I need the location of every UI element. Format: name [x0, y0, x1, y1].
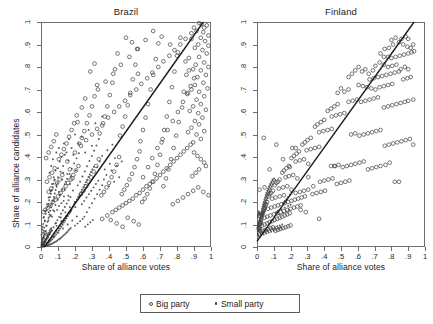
- y-tick-label: .9: [23, 38, 33, 52]
- data-point-small-party: [43, 245, 45, 247]
- data-point-big-party: [193, 83, 197, 87]
- data-point-small-party: [52, 158, 54, 160]
- data-point-big-party: [153, 172, 157, 176]
- legend: Big party Small party: [140, 294, 300, 313]
- data-point-big-party: [87, 180, 91, 184]
- data-point-small-party: [277, 210, 279, 212]
- data-point-small-party: [91, 168, 93, 170]
- data-point-small-party: [257, 226, 259, 228]
- data-point-big-party: [339, 181, 343, 185]
- data-point-big-party: [311, 192, 315, 196]
- y-tick-label: .8: [23, 60, 33, 74]
- y-tick-label: .7: [23, 83, 33, 97]
- data-point-big-party: [194, 63, 198, 67]
- data-point-small-party: [95, 145, 97, 147]
- data-point-small-party: [70, 210, 72, 212]
- data-point-big-party: [122, 188, 126, 192]
- data-point-small-party: [46, 242, 48, 244]
- data-point-big-party: [258, 188, 262, 192]
- data-point-big-party: [166, 128, 170, 132]
- data-point-small-party: [45, 225, 47, 227]
- data-point-big-party: [84, 184, 88, 188]
- data-point-big-party: [149, 88, 153, 92]
- data-point-small-party: [41, 243, 43, 245]
- data-point-big-party: [199, 137, 203, 141]
- data-point-big-party: [186, 130, 190, 134]
- data-point-big-party: [195, 29, 199, 33]
- data-point-small-party: [280, 208, 282, 210]
- data-point-small-party: [266, 197, 268, 199]
- data-point-big-party: [45, 180, 49, 184]
- data-point-big-party: [313, 146, 317, 150]
- data-point-big-party: [204, 73, 208, 77]
- data-point-big-party: [295, 205, 299, 209]
- figure-root: Brazil Finland Share of alliance candida…: [0, 0, 433, 324]
- data-point-small-party: [71, 208, 73, 210]
- data-point-small-party: [91, 202, 93, 204]
- data-point-big-party: [379, 52, 383, 56]
- data-point-big-party: [133, 165, 137, 169]
- data-point-big-party: [171, 202, 175, 206]
- data-point-big-party: [319, 120, 323, 124]
- open-circle-marker-icon: [149, 302, 153, 306]
- data-point-small-party: [46, 237, 48, 239]
- data-point-big-party: [103, 115, 107, 119]
- data-point-small-party: [274, 226, 276, 228]
- data-point-big-party: [303, 195, 307, 199]
- data-point-small-party: [58, 230, 60, 232]
- data-point-big-party: [283, 201, 287, 205]
- data-point-big-party: [382, 106, 386, 110]
- data-point-small-party: [260, 217, 262, 219]
- data-point-small-party: [71, 220, 73, 222]
- data-point-small-party: [265, 198, 267, 200]
- data-point-big-party: [288, 165, 292, 169]
- data-point-small-party: [49, 190, 51, 192]
- y-tick-label: .3: [239, 173, 249, 187]
- data-point-big-party: [145, 76, 149, 80]
- data-point-small-party: [69, 228, 71, 230]
- data-point-big-party: [371, 69, 375, 73]
- panel-title-finland: Finland: [257, 6, 425, 17]
- data-point-big-party: [202, 129, 206, 133]
- data-point-big-party: [403, 100, 407, 104]
- scatter-plot-brazil: [0, 0, 433, 324]
- data-point-small-party: [43, 246, 45, 248]
- data-point-small-party: [269, 228, 271, 230]
- data-point-small-party: [68, 138, 70, 140]
- data-point-big-party: [395, 102, 399, 106]
- data-point-small-party: [261, 217, 263, 219]
- data-point-small-party: [262, 206, 264, 208]
- data-point-big-party: [77, 164, 81, 168]
- data-point-big-party: [141, 188, 145, 192]
- data-point-small-party: [275, 211, 277, 213]
- data-point-big-party: [100, 193, 104, 197]
- data-point-big-party: [278, 195, 282, 199]
- data-point-big-party: [49, 204, 53, 208]
- data-point-small-party: [75, 170, 77, 172]
- data-point-small-party: [53, 210, 55, 212]
- data-point-small-party: [79, 220, 81, 222]
- data-point-small-party: [290, 204, 292, 206]
- data-point-big-party: [191, 105, 195, 109]
- data-point-small-party: [258, 214, 260, 216]
- y-tick-label: 0: [239, 240, 249, 254]
- data-point-small-party: [49, 232, 51, 234]
- data-point-big-party: [207, 65, 211, 69]
- data-point-big-party: [322, 118, 326, 122]
- data-point-small-party: [41, 245, 43, 247]
- data-point-big-party: [298, 190, 302, 194]
- data-point-small-party: [58, 216, 60, 218]
- data-point-big-party: [353, 69, 357, 73]
- data-point-small-party: [270, 231, 272, 233]
- data-point-big-party: [189, 143, 193, 147]
- data-point-big-party: [112, 110, 116, 114]
- data-point-big-party: [162, 60, 166, 64]
- data-point-small-party: [271, 186, 273, 188]
- data-point-big-party: [270, 219, 274, 223]
- data-point-small-party: [81, 203, 83, 205]
- data-point-small-party: [55, 204, 57, 206]
- data-point-big-party: [112, 170, 116, 174]
- data-point-small-party: [43, 233, 45, 235]
- data-point-small-party: [72, 206, 74, 208]
- data-point-small-party: [71, 168, 73, 170]
